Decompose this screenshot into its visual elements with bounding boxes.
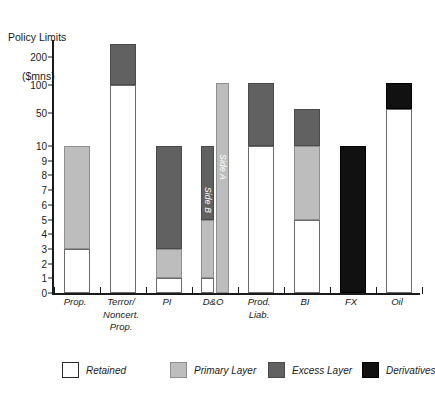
y-tick-mark	[48, 248, 52, 249]
x-axis-label-line: Noncert.	[98, 309, 144, 322]
x-axis-label-line: Liab.	[236, 309, 282, 322]
legend-label-excess: Excess Layer	[292, 365, 352, 376]
bar-category[interactable]	[146, 40, 192, 293]
y-tick-mark	[48, 160, 52, 161]
legend-item-primary[interactable]: Primary Layer	[170, 362, 256, 378]
y-tick-label-7: 7	[41, 185, 47, 196]
y-tick-mark	[48, 234, 52, 235]
legend-swatch-derivatives	[362, 362, 379, 378]
bar-segment-retained[interactable]	[110, 85, 136, 293]
bar-segment-retained[interactable]	[156, 278, 182, 293]
y-tick-mark	[48, 146, 52, 147]
sub-bar-side-b[interactable]: Side B	[201, 40, 214, 293]
y-tick-mark	[48, 57, 52, 58]
x-axis-separator	[54, 287, 55, 294]
bar-segment-retained[interactable]	[248, 146, 274, 293]
sub-bar[interactable]	[294, 40, 320, 293]
sub-bar[interactable]	[248, 40, 274, 293]
bar-segment-primary[interactable]	[216, 83, 229, 293]
x-axis-label-line: Prod.	[236, 296, 282, 309]
x-axis-separator	[422, 287, 423, 294]
sub-bar[interactable]	[340, 40, 366, 293]
y-tick-mark	[48, 293, 52, 294]
plot-area: 01234567891050100200 Side BSide A	[52, 40, 420, 294]
legend-item-derivatives[interactable]: Derivatives	[362, 362, 435, 378]
bar-category[interactable]: Side BSide A	[192, 40, 238, 293]
bar-segment-primary[interactable]	[64, 146, 90, 249]
x-axis-separator	[192, 287, 193, 294]
y-tick-mark	[48, 190, 52, 191]
y-tick-mark	[48, 278, 52, 279]
y-tick-label-6: 6	[41, 199, 47, 210]
sub-bar[interactable]	[156, 40, 182, 293]
x-axis-label-fx: FX	[328, 296, 374, 309]
bar-category[interactable]	[284, 40, 330, 293]
x-axis-label-line: Terror/	[98, 296, 144, 309]
bar-category[interactable]	[330, 40, 376, 293]
legend-swatch-primary	[170, 362, 187, 378]
y-tick-label-5: 5	[41, 214, 47, 225]
bar-segment-retained[interactable]	[294, 220, 320, 294]
x-axis-separator	[284, 287, 285, 294]
x-axis-label-prod-liab: Prod.Liab.	[236, 296, 282, 321]
bar-segment-primary[interactable]	[294, 146, 320, 220]
bar-segment-primary[interactable]	[156, 249, 182, 278]
x-axis-separator	[376, 287, 377, 294]
x-axis-label-line: Prop.	[98, 321, 144, 334]
y-tick-label-10: 10	[36, 141, 47, 152]
y-tick-mark	[48, 219, 52, 220]
x-axis-label-bi: BI	[282, 296, 328, 309]
y-tick-label-0: 0	[41, 288, 47, 299]
bar-segment-derivatives[interactable]	[340, 146, 366, 293]
y-tick-label-200: 200	[30, 52, 47, 63]
y-tick-mark	[48, 263, 52, 264]
x-axis-label-terror-noncert-prop: Terror/Noncert.Prop.	[98, 296, 144, 334]
bar-segment-excess[interactable]	[110, 44, 136, 85]
x-axis-label-line: Oil	[374, 296, 420, 309]
legend-item-retained[interactable]: Retained	[62, 362, 126, 378]
y-tick-label-4: 4	[41, 229, 47, 240]
x-axis-separator	[238, 287, 239, 294]
bar-category[interactable]	[54, 40, 100, 293]
chart-legend: RetainedPrimary LayerExcess LayerDerivat…	[0, 362, 434, 390]
bar-segment-excess[interactable]	[156, 146, 182, 249]
y-tick-label-2: 2	[41, 258, 47, 269]
y-tick-mark	[48, 175, 52, 176]
sub-bar[interactable]	[386, 40, 412, 293]
legend-label-primary: Primary Layer	[194, 365, 256, 376]
x-axis-separator	[146, 287, 147, 294]
y-tick-mark	[48, 85, 52, 86]
bar-segment-retained[interactable]	[64, 249, 90, 293]
bar-segment-derivatives[interactable]	[386, 83, 412, 109]
bar-segment-retained[interactable]	[201, 278, 214, 293]
bar-segment-primary[interactable]	[201, 220, 214, 279]
sub-bar[interactable]	[64, 40, 90, 293]
legend-swatch-retained	[62, 362, 79, 378]
y-tick-mark	[48, 113, 52, 114]
sub-bar[interactable]	[110, 40, 136, 293]
bar-segment-excess[interactable]	[248, 83, 274, 146]
y-tick-label-8: 8	[41, 170, 47, 181]
bar-segment-excess[interactable]	[294, 109, 320, 146]
y-tick-label-1: 1	[41, 273, 47, 284]
legend-item-excess[interactable]: Excess Layer	[268, 362, 352, 378]
x-axis-label-line: BI	[282, 296, 328, 309]
bar-category[interactable]	[238, 40, 284, 293]
x-axis-separator	[100, 287, 101, 294]
legend-label-retained: Retained	[86, 365, 126, 376]
y-tick-mark	[48, 204, 52, 205]
x-axis-label-prop: Prop.	[52, 296, 98, 309]
bar-segment-excess[interactable]	[201, 146, 214, 220]
bar-category[interactable]	[100, 40, 146, 293]
x-axis-label-line: Prop.	[52, 296, 98, 309]
x-axis-label-line: D&O	[190, 296, 236, 309]
sub-bar-side-a[interactable]: Side A	[216, 40, 229, 293]
bar-segment-retained[interactable]	[386, 109, 412, 293]
y-tick-label-50: 50	[36, 108, 47, 119]
x-axis-label-d-o: D&O	[190, 296, 236, 309]
x-axis-label-pi: PI	[144, 296, 190, 309]
bar-category[interactable]	[376, 40, 422, 293]
y-tick-label-9: 9	[41, 155, 47, 166]
x-axis-label-line: FX	[328, 296, 374, 309]
